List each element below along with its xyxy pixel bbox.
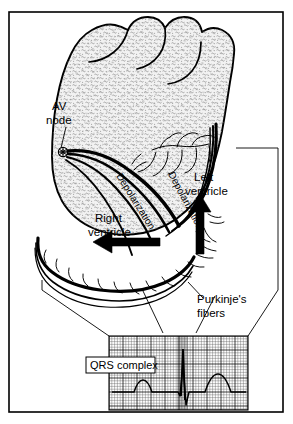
label-purkinje-line2: fibers <box>197 307 225 319</box>
label-left-ventricle-line1: Left <box>194 171 214 183</box>
label-right-ventricle-line2: ventricle <box>88 226 131 238</box>
label-left-ventricle-line2: ventricle <box>185 185 228 197</box>
qrs-complex-callout: QRS complex <box>86 357 158 373</box>
label-av-node-line2: node <box>46 114 72 126</box>
heart-conduction-diagram: AV node Left ventricle Right ventricle D… <box>0 0 293 424</box>
figure-root: AV node Left ventricle Right ventricle D… <box>0 0 293 424</box>
label-right-ventricle-line1: Right <box>95 212 123 224</box>
label-purkinje-line1: Purkinje's <box>197 293 247 305</box>
label-qrs-complex: QRS complex <box>90 359 158 371</box>
av-node-marker <box>58 147 67 156</box>
label-av-node-line1: AV <box>52 100 67 112</box>
